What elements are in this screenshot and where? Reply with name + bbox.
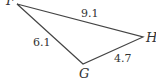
side-label-fh: 9.1 — [81, 7, 99, 20]
vertex-label-f: F — [5, 0, 16, 8]
side-label-fg: 6.1 — [33, 36, 51, 49]
triangle-diagram: F G H 9.1 6.1 4.7 — [0, 0, 156, 81]
vertex-label-g: G — [79, 66, 89, 81]
vertex-label-h: H — [145, 30, 156, 45]
side-label-gh: 4.7 — [114, 52, 132, 65]
